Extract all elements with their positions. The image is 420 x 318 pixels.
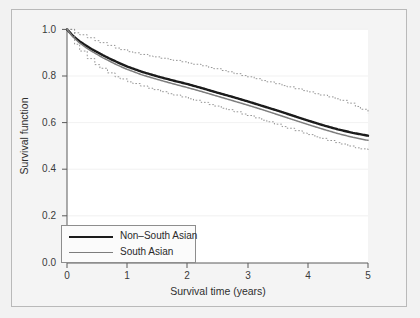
legend-swatch-south-asian bbox=[69, 252, 113, 253]
y-axis-title: Survival function bbox=[18, 76, 30, 196]
y-tick-label-0-2: 0.2 bbox=[26, 210, 56, 221]
x-tick-label-4: 4 bbox=[298, 270, 318, 281]
x-tick-label-5: 5 bbox=[358, 270, 378, 281]
legend-label-non-south-asian: Non–South Asian bbox=[120, 230, 197, 241]
legend-swatch-non-south-asian bbox=[69, 236, 113, 238]
legend-entry-non-south-asian: Non–South Asian bbox=[62, 229, 195, 245]
x-tick-label-2: 2 bbox=[177, 270, 197, 281]
x-tick-label-3: 3 bbox=[238, 270, 258, 281]
y-tick-label-0-4: 0.4 bbox=[26, 163, 56, 174]
legend-label-south-asian: South Asian bbox=[120, 246, 173, 257]
x-tick-label-0: 0 bbox=[57, 270, 77, 281]
legend-entry-south-asian: South Asian bbox=[62, 245, 195, 261]
figure-container: 1.0 0.8 0.6 0.4 0.2 0.0 0 1 2 3 4 5 Surv… bbox=[0, 0, 420, 318]
legend: Non–South Asian South Asian bbox=[61, 225, 196, 263]
y-tick-label-1-0: 1.0 bbox=[26, 24, 56, 35]
y-tick-label-0-0: 0.0 bbox=[26, 257, 56, 268]
x-tick-marks bbox=[67, 263, 368, 268]
x-tick-label-1: 1 bbox=[117, 270, 137, 281]
x-axis-title: Survival time (years) bbox=[118, 285, 318, 297]
y-tick-label-0-8: 0.8 bbox=[26, 70, 56, 81]
y-tick-label-0-6: 0.6 bbox=[26, 117, 56, 128]
